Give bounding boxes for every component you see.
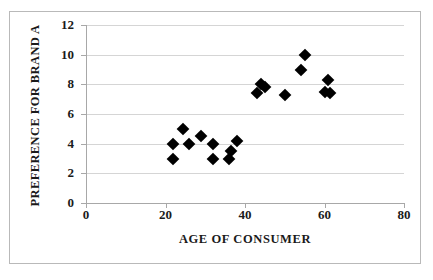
y-axis-tick — [81, 25, 87, 26]
data-point — [324, 87, 337, 100]
gridline — [86, 55, 404, 56]
gridline — [86, 114, 404, 115]
gridline — [86, 25, 404, 26]
gridline — [86, 173, 404, 174]
x-axis-tick-label: 20 — [146, 208, 186, 221]
x-axis-tick-label: 80 — [384, 208, 424, 221]
scatter-chart: 024681012 020406080 AGE OF CONSUMER PREF… — [0, 0, 433, 280]
y-axis-tick — [81, 173, 87, 174]
y-axis-title: PREFERENCE FOR BRAND A — [28, 21, 43, 211]
data-point — [195, 130, 208, 143]
x-axis-tick-label: 60 — [305, 208, 345, 221]
y-axis-tick — [81, 114, 87, 115]
data-point — [298, 48, 311, 61]
data-point — [207, 152, 220, 165]
gridline — [86, 144, 404, 145]
data-point — [207, 137, 220, 150]
x-axis-tick-label: 40 — [225, 208, 265, 221]
x-axis-tick-label: 0 — [66, 208, 106, 221]
data-point — [177, 122, 190, 135]
data-point — [167, 152, 180, 165]
data-point — [183, 137, 196, 150]
data-point — [278, 88, 291, 101]
y-axis-tick — [81, 144, 87, 145]
y-axis-tick — [81, 84, 87, 85]
data-point — [294, 63, 307, 76]
x-axis-title: AGE OF CONSUMER — [86, 232, 404, 247]
gridline — [86, 84, 404, 85]
data-point — [167, 137, 180, 150]
data-point — [231, 134, 244, 147]
y-axis-tick — [81, 55, 87, 56]
